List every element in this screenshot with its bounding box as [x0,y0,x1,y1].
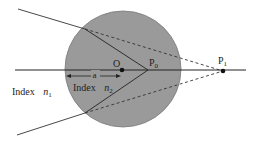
p1-sub: 1 [224,60,228,68]
p0-sub: 0 [155,62,159,70]
inner-index-word: Index [73,82,96,93]
center-label: O [113,58,120,69]
lens-refraction-diagram: a O P0 P1 Index n1 Index n2 [0,0,259,141]
outer-index-word: Index [12,86,35,97]
outer-index-sub: 1 [48,91,52,99]
outer-index-label: Index n1 [12,86,52,99]
p1-label: P1 [218,55,228,68]
lower-incident-ray [17,113,85,135]
point-P1 [221,69,226,74]
center-point-O [120,68,125,73]
upper-incident-ray [18,9,85,29]
radius-label: a [93,70,97,80]
inner-index-sub: 2 [109,87,113,95]
